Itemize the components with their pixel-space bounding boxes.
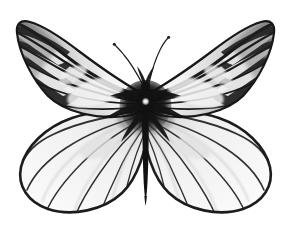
butterfly-specimen-image <box>0 0 291 230</box>
butterfly-illustration <box>0 0 291 230</box>
